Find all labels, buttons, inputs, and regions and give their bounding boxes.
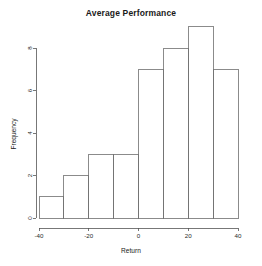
plot-canvas: 02468 -40-2002040 Return Frequency (0, 0, 262, 266)
x-tick-label: -20 (84, 232, 94, 239)
x-axis-title: Return (121, 247, 141, 254)
histogram-bar (139, 69, 164, 218)
x-tick-label: 40 (235, 232, 242, 239)
y-axis (33, 48, 36, 218)
histogram-bar (188, 27, 213, 218)
y-tick-label: 4 (26, 131, 33, 135)
x-tick-label: 0 (137, 232, 141, 239)
x-tick-label: 20 (185, 232, 192, 239)
histogram-bar (64, 176, 89, 219)
y-tick-label: 2 (26, 173, 33, 177)
histogram-bars (39, 27, 238, 218)
y-axis-title: Frequency (10, 118, 18, 150)
y-tick-labels: 02468 (26, 46, 33, 220)
histogram-bar (39, 197, 64, 218)
histogram-bar (163, 48, 188, 218)
x-tick-labels: -40-2002040 (35, 232, 242, 239)
histogram-plot: Average Performance 02468 -40-2002040 Re… (0, 0, 262, 266)
x-tick-label: -40 (35, 232, 45, 239)
histogram-bar (89, 154, 114, 218)
x-axis (39, 228, 238, 231)
y-tick-label: 8 (26, 46, 33, 50)
y-tick-label: 0 (26, 216, 33, 220)
histogram-bar (114, 154, 139, 218)
y-tick-label: 6 (26, 88, 33, 92)
histogram-bar (213, 69, 238, 218)
